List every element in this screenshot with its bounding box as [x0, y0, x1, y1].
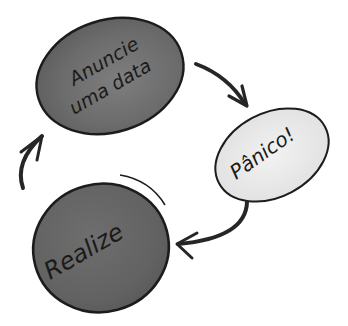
arrow-realize-to-announce	[21, 136, 42, 188]
arrow-announce-to-panic	[196, 64, 247, 106]
arrow-panic-to-realize-head	[177, 233, 197, 258]
arrow-announce-to-panic-shaft	[196, 64, 245, 104]
node-realize: Realize	[19, 169, 183, 326]
node-announce-date: Anuncie uma data	[21, 0, 198, 152]
diagram-svg: Anuncie uma data Pânico! Realize	[0, 0, 348, 326]
node-panic: Pânico!	[199, 90, 344, 221]
cycle-diagram: Anuncie uma data Pânico! Realize	[0, 0, 348, 326]
arrow-panic-to-realize	[177, 202, 247, 258]
